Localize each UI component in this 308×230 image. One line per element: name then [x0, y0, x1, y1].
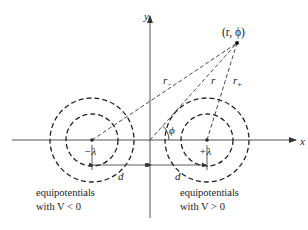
r-line — [150, 43, 237, 140]
x-axis-label: x — [299, 135, 305, 147]
separation-left-label: d — [118, 170, 124, 182]
caption-left-line2: with V < 0 — [36, 201, 81, 212]
caption-right-line2: with V > 0 — [180, 201, 225, 212]
charge-negative-label: −λ — [84, 145, 96, 157]
r-minus-label: r− — [163, 74, 172, 89]
r-plus-label: r+ — [233, 74, 242, 89]
field-point-dot — [235, 41, 239, 45]
r-plus-line — [207, 43, 237, 140]
separation-right-label: d — [175, 170, 181, 182]
line-charge-diagram: x y (r, ϕ) r− r r+ ϕ −λ +λ d d equipoten… — [0, 0, 308, 230]
r-label: r — [211, 74, 216, 86]
caption-right-line1: equipotentials — [180, 187, 239, 198]
caption-left-line1: equipotentials — [36, 187, 95, 198]
r-minus-line — [92, 43, 237, 140]
field-point-label: (r, ϕ) — [222, 26, 245, 39]
angle-label: ϕ — [169, 124, 175, 136]
charge-positive-label: +λ — [199, 145, 211, 157]
y-axis-label: y — [143, 10, 149, 22]
